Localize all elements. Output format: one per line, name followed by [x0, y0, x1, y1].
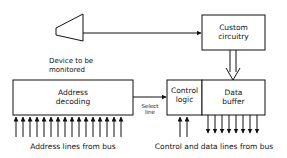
address-decoding-label-2: decoding: [56, 97, 91, 106]
device-trapezoid-icon: [56, 14, 83, 41]
custom-circuitry-label: Custom: [219, 23, 248, 32]
data-lines: [208, 115, 257, 133]
select-line-label-2: line: [145, 109, 156, 115]
control-lines: [180, 117, 187, 137]
custom-circuitry-label-2: circuitry: [218, 32, 249, 41]
device-node: [56, 14, 83, 41]
address-bus-label: Address lines from bus: [30, 142, 115, 151]
device-label-2: monitored: [49, 66, 85, 74]
address-lines: [16, 117, 121, 137]
custom-to-buffer-arrow: [226, 50, 240, 80]
monitoring-interface-diagram: Device to be monitored Custom circuitry …: [0, 0, 287, 158]
data-buffer-label: Data: [225, 88, 243, 97]
control-logic-label-2: logic: [176, 95, 194, 104]
control-logic-label: Control: [171, 86, 198, 95]
control-data-bus-label: Control and data lines from bus: [155, 142, 273, 151]
data-buffer-label-2: buffer: [222, 97, 245, 106]
address-decoding-label: Address: [58, 88, 88, 97]
device-label: Device to be: [49, 57, 93, 65]
